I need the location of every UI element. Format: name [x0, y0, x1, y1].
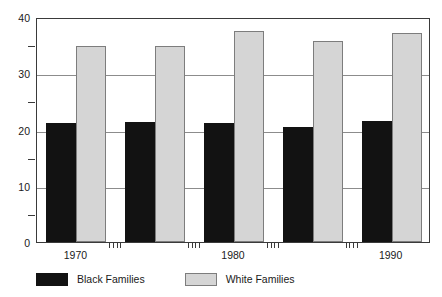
x-minor-tick	[188, 243, 189, 248]
x-minor-tick	[195, 243, 196, 248]
x-minor-tick	[274, 243, 275, 248]
bar-1970-white-families	[76, 46, 106, 242]
bar-1990-white-families	[392, 33, 422, 242]
legend-label: White Families	[226, 274, 295, 285]
bar-1990-black-families	[362, 121, 392, 243]
x-minor-tick	[109, 243, 110, 248]
x-tick-label-1990: 1990	[379, 250, 402, 261]
bar-1970-black-families	[46, 123, 76, 242]
y-minor-tick-25	[28, 102, 35, 103]
y-minor-tick-35	[28, 46, 35, 47]
x-minor-tick	[120, 243, 121, 248]
y-tick-label-0: 0	[0, 238, 30, 249]
x-minor-tick	[192, 243, 193, 248]
bar-1985-black-families	[283, 127, 313, 242]
y-tick-label-40: 40	[0, 13, 30, 24]
y-tick-label-10: 10	[0, 182, 30, 193]
x-tick-label-1970: 1970	[64, 250, 87, 261]
x-minor-tick	[267, 243, 268, 248]
x-minor-tick	[357, 243, 358, 248]
black-swatch	[36, 273, 68, 286]
x-minor-tick	[199, 243, 200, 248]
x-minor-tick	[278, 243, 279, 248]
bar-1980-black-families	[204, 123, 234, 242]
bar-1975-white-families	[155, 46, 185, 242]
y-tick-label-30: 30	[0, 69, 30, 80]
legend-item-white-families: White Families	[185, 273, 295, 286]
chart-legend: Black FamiliesWhite Families	[36, 269, 335, 289]
plot-area	[37, 19, 429, 242]
plot-frame	[36, 18, 430, 243]
bar-1985-white-families	[313, 41, 343, 242]
x-minor-tick	[353, 243, 354, 248]
y-tick-label-20: 20	[0, 125, 30, 136]
y-minor-tick-15	[28, 159, 35, 160]
x-minor-tick	[271, 243, 272, 248]
x-minor-tick	[117, 243, 118, 248]
white-swatch	[185, 273, 217, 286]
y-axis: 010203040	[0, 18, 36, 243]
legend-label: Black Families	[77, 274, 145, 285]
bar-1980-white-families	[234, 31, 264, 243]
y-minor-tick-5	[28, 215, 35, 216]
x-minor-tick	[349, 243, 350, 248]
bar-1975-black-families	[125, 122, 155, 242]
x-tick-label-1980: 1980	[221, 250, 244, 261]
legend-item-black-families: Black Families	[36, 273, 145, 286]
x-axis: 197019801990	[36, 250, 430, 264]
x-minor-tick	[346, 243, 347, 248]
bar-chart-figure: 010203040 197019801990 Black FamiliesWhi…	[0, 0, 442, 297]
x-minor-tick	[113, 243, 114, 248]
